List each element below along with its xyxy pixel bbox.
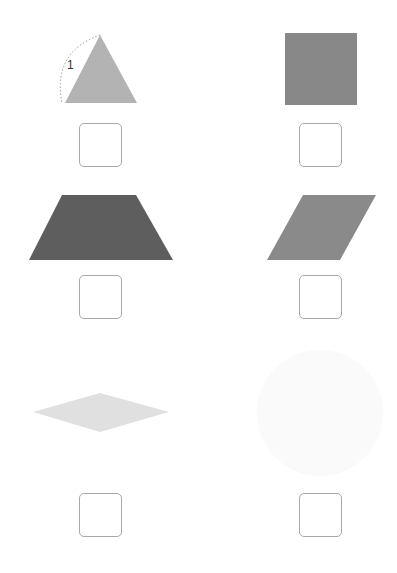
circle-shape bbox=[257, 350, 383, 476]
triangle-side-label: 1 bbox=[67, 59, 74, 71]
parallelogram-shape bbox=[267, 195, 376, 260]
answer-box-rhombus[interactable] bbox=[79, 493, 122, 537]
answer-box-circle[interactable] bbox=[299, 493, 342, 537]
answer-box-square[interactable] bbox=[299, 123, 342, 167]
square-shape bbox=[285, 33, 357, 105]
answer-box-parallelogram[interactable] bbox=[299, 275, 342, 319]
rhombus-shape bbox=[33, 393, 169, 432]
trapezoid-shape bbox=[29, 195, 173, 260]
answer-box-triangle[interactable] bbox=[79, 123, 122, 167]
answer-box-trapezoid[interactable] bbox=[79, 275, 122, 319]
shape-worksheet: 1 bbox=[0, 0, 397, 573]
